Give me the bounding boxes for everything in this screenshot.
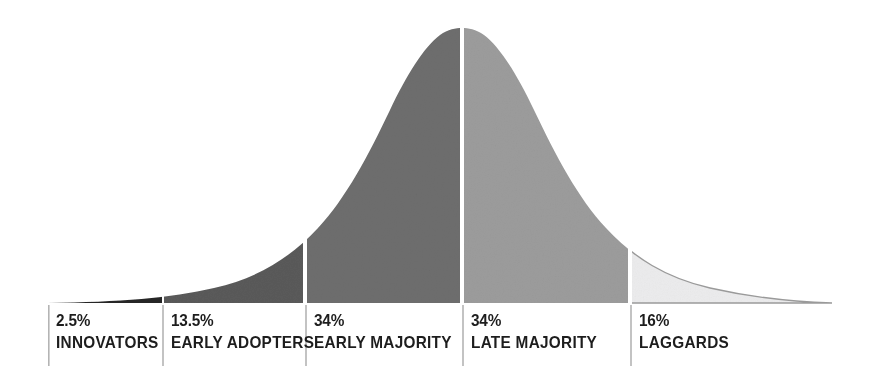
curve-band-early-majority [0, 0, 872, 320]
segment-name-innovators: INNOVATORS [56, 334, 159, 352]
segment-label-late-majority: 34% LATE MAJORITY [471, 312, 607, 352]
segment-name-early-majority: EARLY MAJORITY [314, 334, 452, 352]
segment-percent-late-majority: 34% [471, 312, 597, 330]
segment-name-late-majority: LATE MAJORITY [471, 334, 597, 352]
segment-label-early-adopters: 13.5% EARLY ADOPTERS [171, 312, 325, 352]
segment-label-laggards: 16% LAGGARDS [639, 312, 736, 352]
segment-label-innovators: 2.5% INNOVATORS [56, 312, 166, 352]
segment-percent-early-majority: 34% [314, 312, 452, 330]
segment-percent-innovators: 2.5% [56, 312, 159, 330]
segment-percent-early-adopters: 13.5% [171, 312, 314, 330]
segment-label-early-majority: 34% EARLY MAJORITY [314, 312, 462, 352]
segment-name-laggards: LAGGARDS [639, 334, 729, 352]
diffusion-of-innovation-chart: 2.5% INNOVATORS 13.5% EARLY ADOPTERS 34%… [0, 0, 872, 386]
segment-percent-laggards: 16% [639, 312, 729, 330]
segment-name-early-adopters: EARLY ADOPTERS [171, 334, 314, 352]
